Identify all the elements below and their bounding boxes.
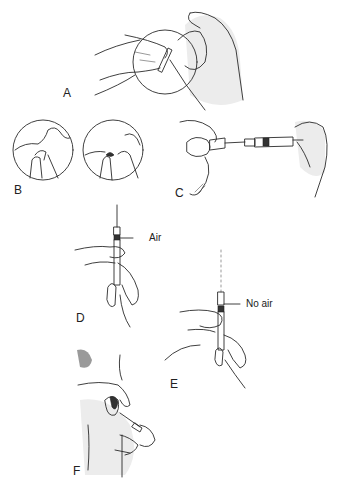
panel-a: A (0, 0, 338, 110)
panel-f-illustration (0, 345, 170, 480)
panel-f: F (0, 345, 170, 480)
panel-c-label: C (175, 187, 184, 199)
panel-f-label: F (73, 465, 80, 477)
panel-b-illustration (0, 110, 160, 200)
no-air-annotation: No air (246, 299, 273, 309)
air-annotation: Air (149, 233, 161, 243)
panel-c-illustration (175, 112, 338, 202)
panel-e-label: E (170, 378, 178, 390)
panel-a-illustration (0, 0, 338, 110)
panel-d-label: D (76, 312, 85, 324)
panel-c: C (175, 112, 338, 202)
panel-a-label: A (63, 87, 71, 99)
panel-b-label: B (14, 184, 22, 196)
panel-e-illustration (160, 250, 338, 390)
panel-e: No air E (160, 250, 338, 390)
panel-b: B (0, 110, 160, 200)
